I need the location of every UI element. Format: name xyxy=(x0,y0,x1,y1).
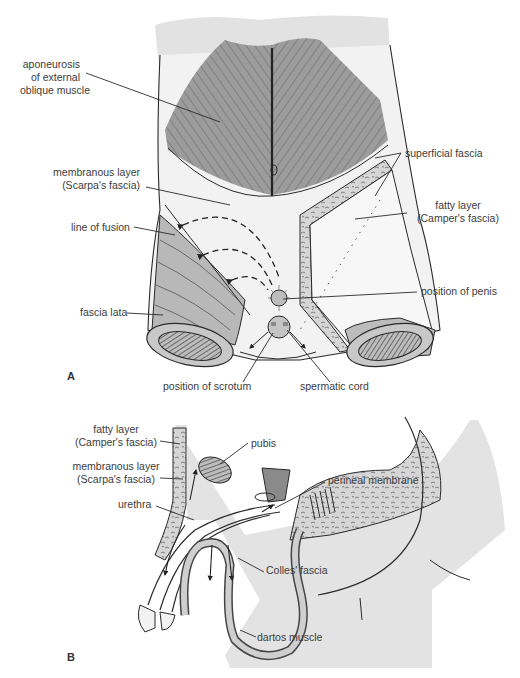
panel-a-drawing xyxy=(143,15,440,373)
label-line-of-fusion: line of fusion xyxy=(71,221,130,234)
label-fatty-b-line2: (Camper's fascia) xyxy=(70,436,162,449)
label-membranous-b-line1: membranous layer xyxy=(70,460,162,473)
label-colles-fascia: Colles' fascia xyxy=(266,564,328,577)
label-superficial-fascia: superficial fascia xyxy=(405,147,483,160)
label-fatty-layer-a: fatty layer (Camper's fascia) xyxy=(410,199,506,225)
label-membranous-line1: membranous layer xyxy=(40,166,140,179)
label-aponeurosis-line3: oblique muscle xyxy=(20,84,80,97)
panel-letter-b: B xyxy=(67,651,75,663)
label-pubis: pubis xyxy=(251,437,276,450)
label-membranous-layer-a: membranous layer (Scarpa's fascia) xyxy=(40,166,140,192)
label-fatty-layer-b: fatty layer (Camper's fascia) xyxy=(70,423,162,449)
panel-letter-a: A xyxy=(67,370,75,382)
label-fascia-lata: fascia lata xyxy=(80,306,127,319)
label-fatty-b-line1: fatty layer xyxy=(70,423,162,436)
label-urethra: urethra xyxy=(118,498,151,511)
label-position-of-penis: position of penis xyxy=(421,285,497,298)
label-membranous-b-line2: (Scarpa's fascia) xyxy=(70,473,162,486)
label-position-of-scrotum: position of scrotum xyxy=(163,380,251,393)
label-dartos-muscle: dartos muscle xyxy=(257,631,322,644)
label-spermatic-cord: spermatic cord xyxy=(300,380,369,393)
label-fatty-line1: fatty layer xyxy=(410,199,506,212)
label-perineal-membrane: perineal membrane xyxy=(328,474,418,487)
label-membranous-line2: (Scarpa's fascia) xyxy=(40,179,140,192)
anatomy-illustration xyxy=(0,0,520,678)
label-aponeurosis: aponeurosis of external oblique muscle xyxy=(20,58,80,97)
label-aponeurosis-line1: aponeurosis xyxy=(20,58,80,71)
label-fatty-line2: (Camper's fascia) xyxy=(410,212,506,225)
label-aponeurosis-line2: of external xyxy=(20,71,80,84)
label-membranous-layer-b: membranous layer (Scarpa's fascia) xyxy=(70,460,162,486)
